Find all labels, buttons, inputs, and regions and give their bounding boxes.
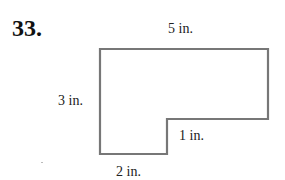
scan-artifact	[41, 162, 43, 163]
l-shape-figure	[0, 0, 285, 180]
left-side-label: 3 in.	[58, 94, 83, 108]
top-side-label: 5 in.	[168, 22, 193, 36]
figure-canvas: 33. 5 in. 3 in. 1 in. 2 in.	[0, 0, 285, 180]
bottom-side-label: 2 in.	[116, 165, 141, 179]
notch-side-label: 1 in.	[179, 129, 204, 143]
